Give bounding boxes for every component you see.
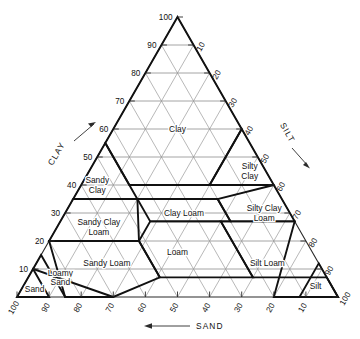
soil-texture-triangle-figure: 1020304050607080901001020304050607080901…	[0, 0, 360, 339]
class-label-line: Loam	[88, 227, 109, 237]
tick-label-sand-50: 50	[168, 301, 181, 314]
class-label-line: Loam	[167, 247, 188, 257]
tick-label-clay-90: 90	[147, 41, 157, 50]
tick-label-clay-80: 80	[131, 69, 141, 78]
tick-label-clay-20: 20	[35, 237, 45, 246]
class-label-line: Silty	[242, 161, 259, 171]
class-label-silt-loam: Silt Loam	[250, 258, 285, 268]
axis-name-clay: CLAY	[46, 140, 67, 167]
class-label-sand: Sand	[25, 284, 45, 294]
class-label-line: Clay Loam	[164, 208, 204, 218]
class-label-line: Loamy	[48, 268, 74, 278]
class-label-line: Clay	[89, 185, 107, 195]
tick-label-sand-20: 20	[264, 301, 277, 314]
class-label-silty-clay-loam: Silty ClayLoam	[247, 203, 283, 223]
axis-name-sand: SAND	[196, 321, 224, 331]
axis-arrowhead-sand	[144, 323, 152, 329]
tick-label-clay-10: 10	[19, 265, 29, 274]
tick-label-sand-40: 40	[200, 301, 213, 314]
class-label-line: Sand	[51, 277, 71, 287]
class-label-line: Sandy	[85, 175, 110, 185]
class-label-line: Silty Clay	[247, 203, 283, 213]
class-label-clay: Clay	[169, 124, 187, 134]
tick-label-clay-50: 50	[83, 153, 93, 162]
class-label-silt: Silt	[310, 281, 322, 291]
class-label-loam: Loam	[167, 247, 188, 257]
class-label-line: Sand	[25, 284, 45, 294]
class-label-sandy-clay-loam: Sandy ClayLoam	[77, 217, 121, 237]
class-label-line: Loam	[254, 213, 275, 223]
triangle-canvas: 1020304050607080901001020304050607080901…	[0, 0, 360, 339]
axis-arrowhead-silt	[303, 162, 310, 169]
gridline-silt-70	[242, 213, 290, 297]
class-label-line: Sandy Clay	[77, 217, 121, 227]
tick-label-silt-100: 100	[338, 290, 353, 307]
tick-label-sand-90: 90	[40, 301, 53, 314]
tick-label-sand-70: 70	[104, 301, 117, 314]
tick-label-sand-60: 60	[136, 301, 149, 314]
class-label-line: Sandy Loam	[83, 258, 130, 268]
class-label-sandy-clay: SandyClay	[85, 175, 110, 195]
tick-label-clay-30: 30	[51, 209, 61, 218]
class-label-silty-clay: SiltyClay	[241, 161, 259, 181]
class-label-line: Clay	[169, 124, 187, 134]
tick-label-sand-10: 10	[297, 301, 310, 314]
class-label-line: Silt	[310, 281, 322, 291]
class-label-line: Silt Loam	[250, 258, 285, 268]
class-label-line: Clay	[241, 171, 259, 181]
tick-label-sand-80: 80	[72, 301, 85, 314]
axis-name-silt: SILT	[278, 121, 297, 145]
tick-label-sand-30: 30	[232, 301, 245, 314]
tick-label-clay-60: 60	[99, 125, 109, 134]
class-label-loamy-sand: LoamySand	[48, 268, 74, 288]
tick-label-sand-100: 100	[7, 299, 22, 316]
tick-label-clay-40: 40	[67, 181, 77, 190]
class-labels-layer: ClaySiltyClaySandyClayClay LoamSilty Cla…	[25, 124, 322, 294]
tick-label-clay-100: 100	[159, 13, 173, 22]
class-label-clay-loam: Clay Loam	[164, 208, 204, 218]
class-label-sandy-loam: Sandy Loam	[83, 258, 130, 268]
tick-label-clay-70: 70	[115, 97, 125, 106]
